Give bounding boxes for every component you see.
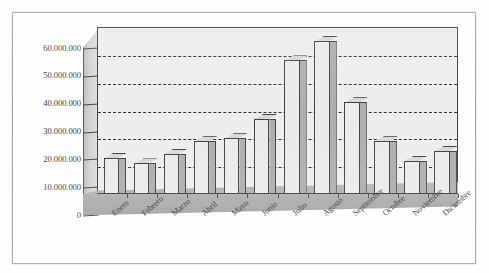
plot-area bbox=[83, 27, 458, 215]
bar bbox=[374, 141, 390, 194]
bar bbox=[344, 102, 360, 194]
bar-series bbox=[97, 27, 458, 215]
bar bbox=[404, 161, 420, 194]
x-axis-tick bbox=[308, 194, 309, 198]
bar-front-face bbox=[314, 41, 330, 194]
bar-front-face bbox=[254, 119, 270, 194]
x-axis-tick bbox=[247, 194, 248, 198]
x-axis-tick bbox=[127, 194, 128, 198]
y-axis-tick-label: 20.000.000 bbox=[15, 155, 81, 164]
bar-front-face bbox=[164, 154, 180, 194]
x-axis-tick bbox=[187, 194, 188, 198]
bar bbox=[164, 154, 180, 194]
bar bbox=[194, 141, 210, 194]
bar-front-face bbox=[104, 158, 120, 194]
bar bbox=[104, 158, 120, 194]
bar-front-face bbox=[374, 141, 390, 194]
bar-front-face bbox=[224, 138, 240, 194]
bar-side-face bbox=[179, 154, 186, 194]
y-axis-tick-label: 10.000.000 bbox=[15, 183, 81, 192]
bar-side-face bbox=[420, 161, 427, 194]
bar-side-face bbox=[450, 151, 457, 194]
x-axis-labels: EneroFebreroMarzoAbrilMayoJunioJulioAgos… bbox=[83, 209, 473, 263]
bar-side-face bbox=[269, 119, 276, 194]
bar bbox=[254, 119, 270, 194]
bar-side-face bbox=[149, 163, 156, 194]
bar-side-face bbox=[300, 60, 307, 194]
y-axis-tick-label: 0 bbox=[15, 211, 81, 220]
bar-front-face bbox=[194, 141, 210, 194]
scanned-page: 60.000.00050.000.00040.000.00030.000.000… bbox=[0, 0, 489, 273]
y-axis-tick-label: 30.000.000 bbox=[15, 127, 81, 136]
y-axis-tick-label: 50.000.000 bbox=[15, 71, 81, 80]
bar-front-face bbox=[404, 161, 420, 194]
bar-side-face bbox=[330, 41, 337, 194]
bar-chart: 60.000.00050.000.00040.000.00030.000.000… bbox=[13, 13, 475, 263]
x-axis-tick bbox=[278, 194, 279, 198]
bar-front-face bbox=[134, 163, 150, 194]
bar-side-face bbox=[239, 138, 246, 194]
bar-front-face bbox=[284, 60, 300, 194]
bar-front-face bbox=[344, 102, 360, 194]
chart-frame: 60.000.00050.000.00040.000.00030.000.000… bbox=[12, 12, 476, 264]
bar bbox=[314, 41, 330, 194]
bar bbox=[134, 163, 150, 194]
y-axis-tick-label: 60.000.000 bbox=[15, 44, 81, 53]
x-axis-tick bbox=[217, 194, 218, 198]
bar bbox=[224, 138, 240, 194]
bar-side-face bbox=[119, 158, 126, 194]
y-axis-tick-label: 40.000.000 bbox=[15, 99, 81, 108]
bar-side-face bbox=[209, 141, 216, 194]
y-axis-labels: 60.000.00050.000.00040.000.00030.000.000… bbox=[15, 13, 81, 263]
bar-side-face bbox=[360, 102, 367, 194]
bar bbox=[284, 60, 300, 194]
bar-side-face bbox=[390, 141, 397, 194]
